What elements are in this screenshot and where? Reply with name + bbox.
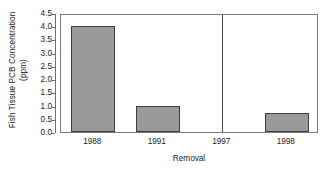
y-tick-mark [51,14,55,15]
y-tick-mark [51,54,55,55]
bar-1998 [265,113,309,132]
y-tick-label: 1.0 [30,102,52,110]
y-tick-label: 2.0 [30,76,52,84]
y-tick-label: 3.0 [30,50,52,58]
y-tick-label: 0.0 [30,129,52,137]
y-tick-mark [51,40,55,41]
y-tick-label: 1.5 [30,89,52,97]
bar-1988 [71,26,115,132]
y-tick-label: 2.5 [30,63,52,71]
x-tick-label: 1991 [148,137,166,147]
y-tick-mark [51,27,55,28]
y-axis-spine [55,14,56,133]
y-tick-label: 0.5 [30,116,52,124]
y-tick-mark [51,93,55,94]
y-tick-mark [51,133,55,134]
x-axis-tick-labels: 1988199119971998 [60,137,318,149]
y-axis-title-line1: Fish Tissue PCB Concentration [8,12,19,129]
bar-1991 [136,106,180,132]
x-axis-title: Removal [60,154,318,164]
y-axis-title-line2: (ppm) [18,12,29,129]
y-tick-label: 4.5 [30,10,52,18]
y-tick-mark [51,67,55,68]
y-tick-mark [51,80,55,81]
y-tick-label: 4.0 [30,23,52,31]
y-tick-mark [51,107,55,108]
x-tick-label: 1997 [212,137,230,147]
y-axis-tick-labels: 0.00.51.01.52.02.53.03.54.04.5 [30,14,52,133]
x-tick-label: 1998 [277,137,295,147]
pcb-concentration-bar-chart: Fish Tissue PCB Concentration (ppm) 0.00… [0,0,333,175]
y-tick-mark [51,120,55,121]
y-tick-label: 3.5 [30,36,52,44]
x-tick-label: 1988 [83,137,101,147]
removal-divider [222,15,223,132]
plot-area [60,14,318,133]
